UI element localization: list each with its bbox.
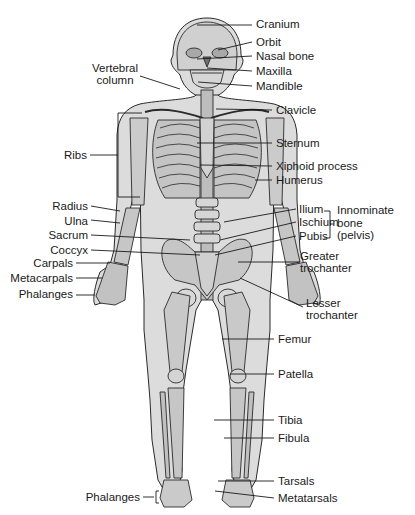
label-greater-trochanter: Greater trochanter (300, 250, 352, 274)
label-metacarpals: Metacarpals (2, 272, 73, 284)
label-radius: Radius (20, 200, 88, 212)
label-sternum: Sternum (276, 137, 319, 149)
label-nasal-bone: Nasal bone (256, 50, 314, 62)
label-coccyx: Coccyx (20, 244, 88, 256)
label-vertebral-column: Vertebral column (92, 62, 138, 86)
label-maxilla: Maxilla (256, 65, 292, 77)
label-lesser-trochanter: Lesser trochanter (306, 297, 358, 321)
label-patella: Patella (278, 368, 313, 380)
label-ribs: Ribs (40, 149, 87, 161)
label-ulna: Ulna (20, 215, 88, 227)
label-tarsals: Tarsals (278, 475, 314, 487)
label-xiphoid-process: Xiphoid process (276, 160, 358, 172)
label-ischium: Ischium (299, 216, 339, 228)
label-carpals: Carpals (2, 257, 73, 269)
label-fibula: Fibula (278, 432, 309, 444)
label-ilium: Ilium (299, 203, 323, 215)
label-phalanges-hand: Phalanges (2, 288, 73, 300)
label-orbit: Orbit (256, 36, 281, 48)
label-mandible: Mandible (256, 80, 303, 92)
label-innominate-bone: Innominate bone (pelvis) (337, 204, 394, 242)
label-pubis: Pubis (299, 230, 328, 242)
label-humerus: Humerus (276, 174, 323, 186)
label-clavicle: Clavicle (276, 104, 316, 116)
label-cranium: Cranium (256, 18, 299, 30)
label-metatarsals: Metatarsals (278, 492, 337, 504)
label-phalanges-foot: Phalanges (70, 491, 140, 503)
label-femur: Femur (278, 333, 311, 345)
label-sacrum: Sacrum (20, 229, 88, 241)
label-tibia: Tibia (278, 414, 303, 426)
